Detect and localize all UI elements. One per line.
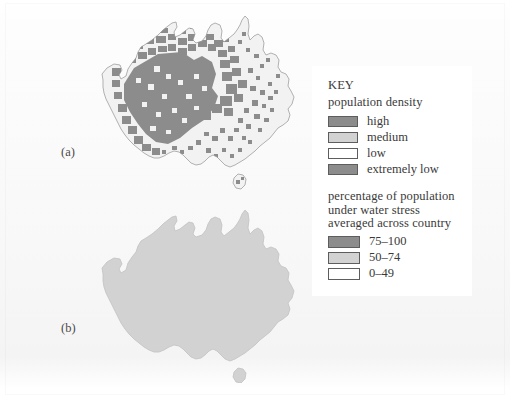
panel-label-a: (a) — [61, 145, 75, 160]
map-a-svg — [62, 8, 302, 193]
legend-label-0-49: 0–49 — [369, 266, 394, 281]
swatch-medium — [328, 132, 358, 143]
map-b-landmass — [102, 210, 294, 383]
legend-item-medium: medium — [328, 130, 472, 144]
legend-box: KEY population density high medium low e… — [312, 66, 472, 296]
legend-water-stress-heading-line1: percentage of population — [328, 190, 476, 204]
swatch-75-100 — [328, 236, 360, 248]
map-b-svg — [62, 188, 302, 383]
legend-label-extremely-low: extremely low — [367, 162, 439, 177]
legend-label-high: high — [367, 114, 389, 129]
legend-label-50-74: 50–74 — [369, 250, 400, 265]
swatch-50-74 — [328, 252, 360, 264]
legend-water-stress-heading: percentage of population under water str… — [328, 190, 476, 231]
legend-density-items: high medium low extremely low — [312, 114, 472, 176]
legend-label-low: low — [367, 146, 386, 161]
map-panel-a — [62, 8, 302, 193]
legend-key-title: KEY — [328, 78, 472, 93]
legend-item-75-100: 75–100 — [328, 235, 472, 249]
legend-item-low: low — [328, 146, 472, 160]
swatch-extremely-low — [328, 164, 358, 175]
map-b-tasmania — [233, 368, 246, 383]
swatch-0-49 — [328, 268, 360, 280]
legend-item-extremely-low: extremely low — [328, 162, 472, 176]
swatch-high — [328, 116, 358, 127]
legend-label-75-100: 75–100 — [369, 234, 407, 249]
legend-item-high: high — [328, 114, 472, 128]
legend-item-50-74: 50–74 — [328, 251, 472, 265]
swatch-low — [328, 148, 358, 159]
legend-density-heading: population density — [328, 95, 472, 110]
legend-label-medium: medium — [367, 130, 408, 145]
panel-label-b: (b) — [61, 321, 76, 336]
map-a-tasmania — [233, 174, 246, 189]
figure-page: (a) (b) KEY population density high medi… — [0, 0, 510, 405]
legend-water-stress-items: 75–100 50–74 0–49 — [312, 235, 472, 281]
legend-water-stress-heading-line3: averaged across country — [328, 217, 476, 231]
legend-item-0-49: 0–49 — [328, 267, 472, 281]
legend-water-stress-heading-line2: under water stress — [328, 204, 476, 218]
map-panel-b — [62, 188, 302, 383]
